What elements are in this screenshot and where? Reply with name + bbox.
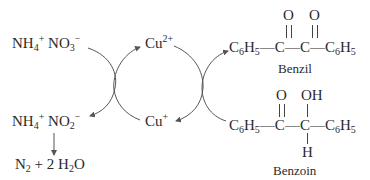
copper-i-ion: Cu+ [145,114,168,129]
arrow-cu2plus-to-cuplus [174,46,203,121]
arrow-benzoin-to-benzil [202,51,228,121]
copper-ii-ion: Cu2+ [145,36,173,51]
benzil-double-bond-2 [312,25,318,38]
arrow-cuplus-to-cu2plus [114,47,140,120]
benzoin-oh-bond [307,104,308,117]
ammonium-nitrite: NH4+ NO2− [12,114,80,129]
benzoin-double-bond [279,104,285,117]
benzoin-chain: C6H5—C—C—C6H5 [229,118,356,133]
benzil-double-bond-1 [286,25,292,38]
benzil-oxygen-2: O [309,8,320,23]
benzoin-hydrogen: H [302,145,313,160]
benzil-label: Benzil [278,62,312,75]
benzoin-hydroxyl: OH [301,88,323,103]
benzil-chain: C6H5—C—C—C6H5 [229,40,356,55]
arrow-nitrate-to-nitrite [88,48,116,116]
ammonium-nitrate: NH4+ NO3− [12,36,80,51]
benzoin-oxygen: O [276,88,287,103]
decomposition-products: N2 + 2 H2O [15,157,85,172]
benzil-oxygen-1: O [283,8,294,23]
benzoin-h-bond [307,133,308,144]
benzoin-label: Benzoin [273,164,316,177]
